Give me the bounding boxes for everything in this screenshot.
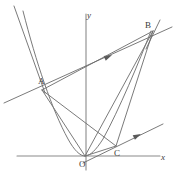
segment-A-B <box>42 31 153 90</box>
point-label-o: O <box>79 160 86 169</box>
parabola-figure: O A B C x y <box>0 0 176 188</box>
point-label-c: C <box>114 149 120 158</box>
axes-group <box>17 14 160 170</box>
y-axis-label: y <box>87 11 91 20</box>
segment-A-O <box>42 90 85 156</box>
point-label-a: A <box>38 77 45 86</box>
ray-through-O-C-arrowhead <box>133 132 142 140</box>
point-label-b: B <box>145 21 151 30</box>
x-axis-label: x <box>161 153 165 162</box>
ray-through-A-B <box>4 27 172 103</box>
segment-A-C <box>42 90 116 146</box>
